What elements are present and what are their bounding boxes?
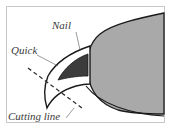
label-cutting-line: Cutting line: [8, 111, 60, 122]
label-nail: Nail: [52, 20, 71, 31]
label-quick: Quick: [11, 45, 37, 56]
nail-trimming-diagram: Nail Quick Cutting line: [0, 0, 169, 129]
